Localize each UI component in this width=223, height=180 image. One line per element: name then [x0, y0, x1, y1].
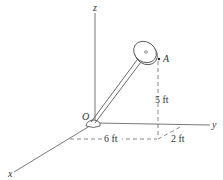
x-offset-label: 6 ft — [104, 133, 118, 144]
disk-center-hole — [145, 51, 148, 53]
y-axis — [95, 123, 210, 125]
z-axis-label: z — [92, 2, 97, 13]
diagram-canvas: z y x O A 6 ft 5 ft 2 ft — [0, 0, 223, 180]
y-offset-label: 2 ft — [171, 133, 185, 144]
point-a-dot — [158, 58, 160, 60]
origin-label: O — [82, 111, 89, 122]
y-axis-label: y — [211, 119, 217, 130]
rod-edge-1 — [91, 60, 137, 122]
point-a-label: A — [162, 53, 170, 64]
x-axis-label: x — [7, 168, 13, 179]
height-label: 5 ft — [155, 94, 169, 105]
x-axis — [14, 124, 93, 172]
rod-edge-2 — [95, 62, 141, 123]
diagram-svg: z y x O A 6 ft 5 ft 2 ft — [0, 0, 223, 180]
